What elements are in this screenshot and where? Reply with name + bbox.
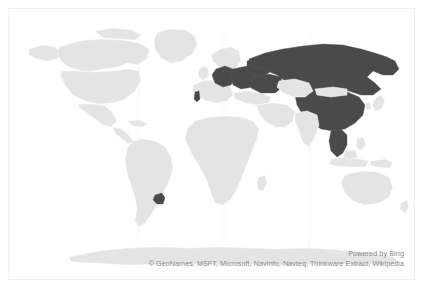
map-frame: .land { fill: #e4e4e4; stroke: #f8f8f8; … (8, 8, 415, 280)
map-canvas[interactable]: .land { fill: #e4e4e4; stroke: #f8f8f8; … (9, 9, 414, 279)
region-mongolia[interactable] (315, 87, 347, 97)
world-map-svg[interactable]: .land { fill: #e4e4e4; stroke: #f8f8f8; … (9, 9, 414, 279)
world-map-widget[interactable]: .land { fill: #e4e4e4; stroke: #f8f8f8; … (0, 0, 423, 296)
region-korea[interactable] (365, 102, 371, 110)
